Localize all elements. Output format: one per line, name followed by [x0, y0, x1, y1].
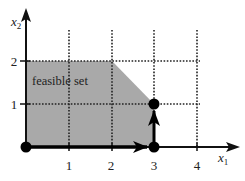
vertex-3-0 — [149, 142, 160, 153]
x-tick-3: 3 — [151, 158, 158, 173]
x-tick-1: 1 — [66, 158, 73, 173]
feasible-set-label: feasible set — [32, 74, 88, 88]
y-axis-label: x2 — [10, 14, 21, 31]
vertex-3-1 — [149, 99, 160, 110]
y-tick-1: 1 — [11, 97, 18, 112]
x-tick-4: 4 — [194, 158, 201, 173]
vertex-origin — [21, 142, 32, 153]
y-tick-2: 2 — [11, 54, 18, 69]
x-axis-label: x1 — [217, 150, 228, 167]
feasible-set-diagram: 1 2 3 4 1 2 x1 x2 feasible set — [0, 0, 245, 181]
x-tick-2: 2 — [108, 158, 115, 173]
